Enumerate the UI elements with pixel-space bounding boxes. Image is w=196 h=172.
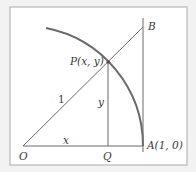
label-Q: Q xyxy=(103,150,112,163)
label-x: x xyxy=(63,134,69,146)
unit-circle-diagram: P(x, y) B A(1, 0) O Q 1 y x xyxy=(0,0,196,172)
label-P: P(x, y) xyxy=(69,55,104,67)
label-y: y xyxy=(97,96,105,108)
point-P-dot xyxy=(106,60,109,63)
label-A: A(1, 0) xyxy=(146,139,183,151)
label-O: O xyxy=(19,150,28,162)
label-hypotenuse: 1 xyxy=(58,93,65,105)
label-B: B xyxy=(147,20,156,32)
